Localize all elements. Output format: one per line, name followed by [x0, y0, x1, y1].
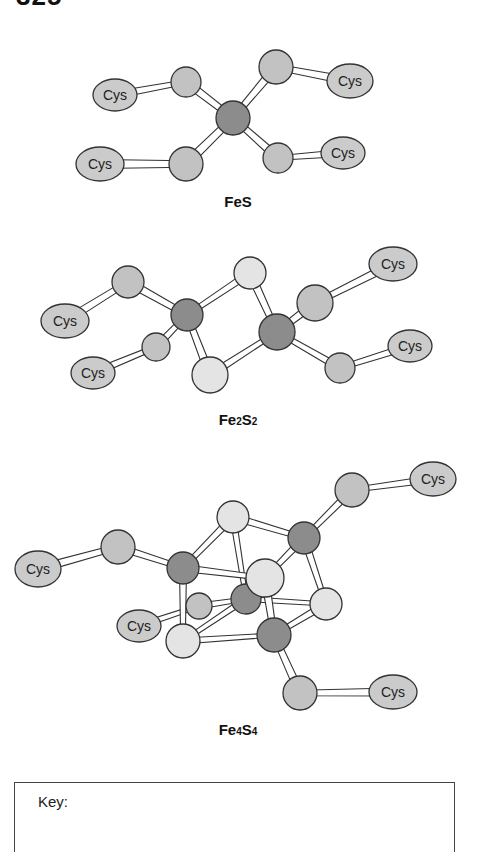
key-legend-box: Key:: [14, 782, 455, 852]
cys-residue: Cys: [327, 64, 373, 98]
cys-label: Cys: [331, 145, 355, 161]
cys-residue: Cys: [93, 79, 137, 111]
cys-label: Cys: [127, 618, 151, 634]
bridging-sulfur-atom: [166, 624, 200, 658]
cys-label: Cys: [81, 365, 105, 381]
cysteine-sulfur-atom: [297, 285, 333, 321]
cysteine-sulfur-atom: [112, 266, 144, 298]
cys-label: Cys: [103, 87, 127, 103]
cys-label: Cys: [398, 338, 422, 354]
formula-label: FeS: [224, 193, 252, 210]
bridging-sulfur-atom: [192, 357, 228, 393]
bridging-sulfur-atom: [217, 501, 249, 533]
cys-residue: Cys: [71, 357, 115, 389]
cys-residue: Cys: [369, 675, 417, 709]
iron-atom: [257, 618, 291, 652]
formula-label: Fe2S2: [219, 411, 258, 428]
cysteine-sulfur-atom: [101, 530, 135, 564]
key-title: Key:: [38, 793, 68, 810]
cysteine-sulfur-atom: [335, 473, 369, 507]
bridging-sulfur-atom: [310, 588, 342, 620]
cys-residue: Cys: [15, 551, 61, 587]
cys-label: Cys: [338, 73, 362, 89]
iron-atom: [171, 299, 203, 331]
cysteine-sulfur-atom: [325, 353, 355, 383]
cys-residue: Cys: [369, 247, 417, 281]
cys-residue: Cys: [117, 610, 161, 642]
cys-residue: Cys: [410, 462, 456, 496]
cys-label: Cys: [381, 256, 405, 272]
cysteine-sulfur-atom: [283, 676, 317, 710]
cysteine-sulfur-atom: [142, 333, 170, 361]
cysteine-sulfur-atom: [169, 147, 203, 181]
iron-atom: [216, 101, 250, 135]
fes-cluster: CysCysCysCysFeS: [76, 50, 373, 210]
cys-label: Cys: [421, 471, 445, 487]
cysteine-sulfur-atom: [171, 67, 201, 97]
cysteine-sulfur-atom: [263, 143, 293, 173]
formula-label: Fe4S4: [219, 721, 258, 738]
iron-atom: [288, 522, 320, 554]
cys-label: Cys: [26, 561, 50, 577]
cys-residue: Cys: [41, 304, 89, 338]
cys-residue: Cys: [321, 137, 365, 169]
cysteine-sulfur-atom: [259, 50, 293, 84]
bridging-sulfur-atom: [234, 257, 266, 289]
cys-label: Cys: [381, 684, 405, 700]
cys-label: Cys: [88, 156, 112, 172]
cysteine-sulfur-atom: [186, 593, 212, 619]
cys-residue: Cys: [76, 147, 124, 181]
fe2s2-cluster: CysCysCysCysFe2S2: [41, 247, 432, 428]
bridging-sulfur-atom: [246, 559, 284, 597]
iron-atom: [259, 314, 295, 350]
iron-atom: [167, 552, 199, 584]
cys-residue: Cys: [388, 330, 432, 362]
cys-label: Cys: [53, 313, 77, 329]
fe4s4-cluster: CysCysCysCysFe4S4: [15, 462, 456, 738]
